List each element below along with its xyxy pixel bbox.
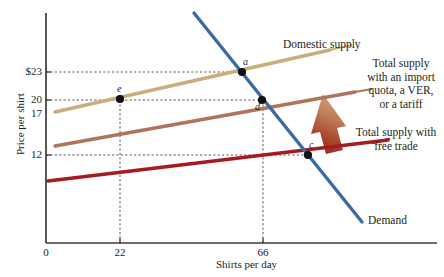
y-tick-label-12: 12 — [8, 148, 42, 161]
total-supply-restricted-label: Total supply with an import quota, a VER… — [358, 57, 444, 111]
demand-label: Demand — [368, 214, 407, 228]
total-supply-restricted-line-3: quota, a VER, — [369, 84, 434, 96]
total-supply-free-line-2: free trade — [374, 140, 418, 152]
x-tick-label-66: 66 — [253, 246, 273, 259]
point-label-d: d — [255, 101, 260, 113]
point-label-e: e — [117, 83, 121, 95]
total-supply-restricted-line-1: Total supply — [372, 57, 429, 69]
point-label-a: a — [243, 56, 248, 68]
total-supply-free-trade-curve — [48, 140, 388, 181]
domestic-supply-label: Domestic supply — [283, 38, 361, 52]
total-supply-free-trade-label: Total supply with free trade — [348, 126, 444, 153]
total-supply-restricted-line-4: or a tariff — [379, 98, 422, 110]
supply-demand-chart: Price per shirt Shirts per day $23 20 17… — [0, 0, 444, 277]
y-tick-label-17: 17 — [8, 107, 42, 120]
total-supply-free-line-1: Total supply with — [356, 126, 436, 138]
y-tick-label-23: $23 — [8, 65, 42, 78]
x-axis-title: Shirts per day — [216, 258, 277, 271]
x-tick-label-0: 0 — [36, 246, 56, 259]
guide-lines — [46, 72, 309, 243]
y-tick-label-20: 20 — [8, 93, 42, 106]
point-label-c: c — [309, 139, 313, 151]
x-tick-label-22: 22 — [110, 246, 130, 259]
total-supply-restricted-line-2: with an import — [367, 71, 435, 83]
annotated-points — [116, 68, 312, 159]
